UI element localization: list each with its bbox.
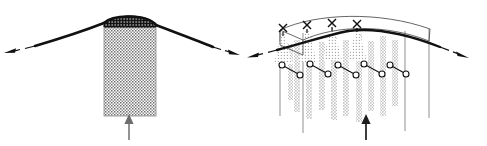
- outflow-arrow-right-shaft: [213, 47, 221, 50]
- outflow-arrow-right-head: [456, 52, 469, 58]
- inversion-interface-line-left: [35, 23, 104, 46]
- unsuppressed-plume-panel: [0, 0, 244, 146]
- outflow-arrow-left-shaft: [25, 46, 35, 49]
- figure-root: [0, 0, 487, 146]
- outflow-arrow-left-head: [4, 48, 16, 53]
- outflow-arrow-left-head: [247, 52, 259, 57]
- outflow-arrow-left-tail: [258, 54, 263, 55]
- outflow-arrow-left-shaft: [268, 50, 277, 52]
- droplet-stream: [319, 42, 325, 110]
- outflow-arrow-right-head: [228, 50, 240, 55]
- panel-right-canvas: [244, 0, 487, 146]
- stippled-plume-column: [104, 23, 156, 116]
- frame-top-back-edge: [280, 16, 430, 30]
- droplet-stream: [343, 40, 349, 116]
- panel-left-canvas: [0, 0, 244, 146]
- suppressed-plume-panel: [244, 0, 487, 146]
- droplet-stream: [392, 40, 398, 106]
- outflow-arrow-right-shaft: [440, 47, 449, 50]
- source-inflow-arrow-head: [361, 114, 370, 124]
- inversion-interface-line-right: [156, 25, 213, 47]
- outflow-arrow-left-tail: [15, 50, 20, 51]
- droplet-stream: [368, 41, 374, 111]
